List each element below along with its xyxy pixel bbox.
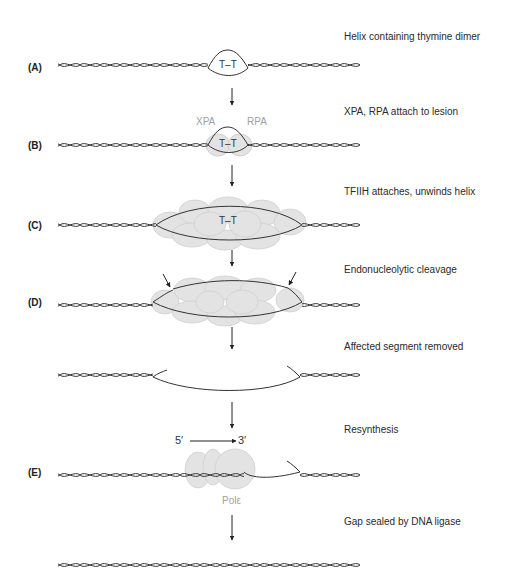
helix-removed	[58, 366, 360, 391]
thymine-dimer-a: T–T	[219, 59, 237, 70]
helix-e	[58, 449, 360, 489]
thymine-dimer-b: T–T	[219, 138, 237, 149]
tfiih-complex-d	[151, 276, 304, 326]
helix-b: T–T	[58, 127, 360, 156]
helix-d	[58, 272, 360, 326]
cleavage-arrow-left	[163, 274, 170, 287]
helix-a: T–T	[58, 50, 360, 76]
ner-diagram: T–T T–T T–T	[0, 0, 508, 586]
cleavage-arrow-right	[289, 272, 296, 285]
thymine-dimer-c: T–T	[219, 215, 237, 226]
helix-c: T–T	[58, 197, 360, 250]
helix-final	[58, 558, 360, 568]
